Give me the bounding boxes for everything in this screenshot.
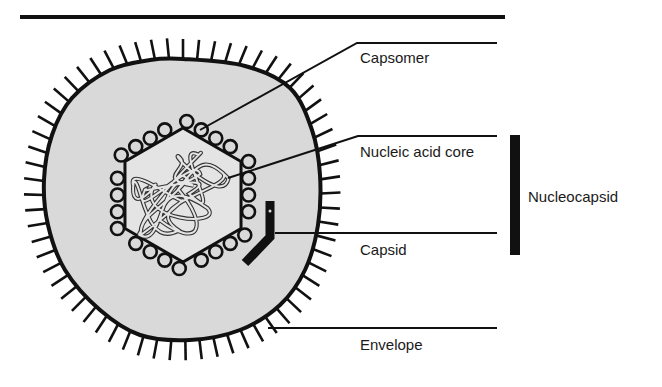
virus-structure-diagram: Capsomer Nucleic acid core Capsid Envelo… <box>0 0 662 387</box>
label-envelope: Envelope <box>360 337 423 352</box>
label-nucleocapsid: Nucleocapsid <box>528 189 618 204</box>
label-capsid: Capsid <box>360 242 407 257</box>
label-nucleic-acid-core: Nucleic acid core <box>360 144 474 159</box>
nucleocapsid-bracket-bar <box>510 135 520 255</box>
label-capsomer: Capsomer <box>360 50 429 65</box>
